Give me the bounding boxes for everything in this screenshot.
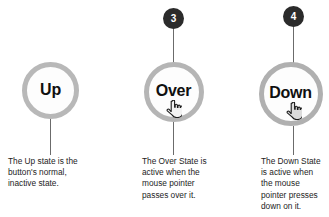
connector-line-over-top	[173, 28, 174, 64]
caption-line: down on it.	[261, 201, 329, 212]
caption-line: mouse pointer	[142, 178, 250, 189]
caption-line: button's normal,	[8, 167, 112, 178]
connector-line-down-top	[293, 26, 294, 64]
caption-line: The Over State is	[142, 156, 250, 167]
caption-line: the mouse	[261, 178, 329, 189]
step-badge-4-number: 4	[291, 11, 297, 22]
caption-up: The Up state is the button's normal, ina…	[8, 156, 112, 190]
step-badge-3: 3	[163, 8, 184, 29]
button-states-diagram: Up The Up state is the button's normal, …	[0, 0, 329, 217]
pointing-hand-cursor-pressed-icon	[286, 102, 302, 120]
state-label-up: Up	[40, 82, 61, 98]
state-label-down: Down	[269, 85, 312, 101]
caption-line: inactive state.	[8, 178, 112, 189]
connector-line-down-bottom	[293, 126, 294, 155]
caption-line: The Up state is the	[8, 156, 112, 167]
caption-line: is active when	[261, 167, 329, 178]
connector-line-up	[50, 117, 51, 155]
caption-line: active when the	[142, 167, 250, 178]
step-badge-3-number: 3	[171, 13, 177, 24]
caption-line: pointer presses	[261, 190, 329, 201]
caption-line: passes over it.	[142, 190, 250, 201]
step-badge-4: 4	[283, 6, 304, 27]
state-label-over: Over	[156, 83, 192, 99]
caption-over: The Over State is active when the mouse …	[142, 156, 250, 201]
caption-down: The Down State is active when the mouse …	[261, 156, 329, 212]
caption-line: The Down State	[261, 156, 329, 167]
state-circle-up[interactable]: Up	[22, 62, 79, 119]
connector-line-over-bottom	[173, 122, 174, 155]
pointing-hand-cursor-icon	[166, 100, 182, 118]
